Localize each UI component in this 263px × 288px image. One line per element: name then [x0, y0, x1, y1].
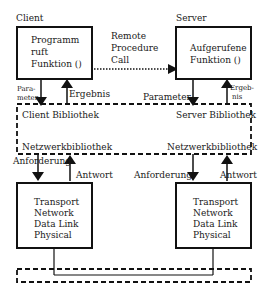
rpc-line-3: Call	[111, 55, 129, 66]
client-box-line-1: Programm	[31, 35, 79, 46]
left-response-label: Antwort	[76, 170, 113, 181]
client-title: Client	[16, 13, 43, 24]
client-box-line-3: Funktion ()	[31, 59, 82, 70]
client-result-arrow-icon	[61, 79, 73, 88]
left-stack-layer: Physical	[34, 230, 72, 241]
client-param-label-1: Para-	[17, 85, 35, 93]
right-stack-layer: Network	[193, 208, 233, 219]
right-stack-layer: Transport	[193, 197, 238, 208]
client-box-line-2: ruft	[31, 47, 48, 58]
left-stack-layer: Data Link	[34, 219, 79, 230]
client-library-label: Client Bibliothek	[22, 110, 99, 121]
server-netlib-label: Netzwerkbibliothek	[167, 142, 257, 153]
server-box-line-1: Aufgerufene	[190, 43, 247, 54]
client-result-label: Ergebnis	[69, 89, 110, 100]
server-result-label-1: Ergeb-	[230, 84, 254, 92]
client-netlib-label: Netzwerkbibliothek	[22, 142, 112, 153]
rpc-line-1: Remote	[111, 31, 146, 42]
left-protocol-stack-box: Transport Network Data Link Physical	[16, 182, 93, 249]
right-request-label: Anforderung	[134, 170, 192, 181]
right-response-arrow-icon	[221, 155, 233, 164]
server-box-line-2: Funktion ()	[190, 55, 241, 66]
right-stack-layer: Physical	[193, 230, 231, 241]
server-function-box: Aufgerufene Funktion ()	[175, 26, 252, 80]
rpc-line-2: Procedure	[111, 43, 158, 54]
server-result-label-2: nis	[232, 93, 242, 101]
left-request-label: Anforderung	[13, 156, 71, 167]
left-stack-layer: Transport	[34, 197, 79, 208]
right-stack-layer: Data Link	[193, 219, 238, 230]
server-title: Server	[176, 13, 207, 24]
client-program-box: Programm ruft Funktion ()	[16, 26, 93, 80]
left-stack-layer: Network	[34, 208, 74, 219]
right-protocol-stack-box: Transport Network Data Link Physical	[175, 182, 252, 249]
server-param-label: Parameter	[143, 92, 191, 103]
client-param-label-2: meter	[17, 94, 38, 102]
right-response-label: Antwort	[220, 170, 257, 181]
left-request-arrow-icon	[32, 172, 44, 181]
server-library-label: Server Bibliothek	[176, 110, 256, 121]
